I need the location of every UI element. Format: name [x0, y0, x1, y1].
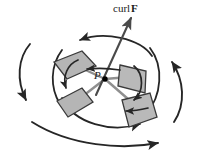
- outer-arrow-left: [20, 44, 30, 100]
- outer-arrow-bottom: [32, 122, 158, 146]
- arc-left-sweep: [53, 50, 62, 104]
- vector-f-symbol: F: [131, 2, 138, 14]
- spin-arrow-middle-left: [87, 68, 120, 70]
- point-p-label: P: [94, 70, 101, 81]
- point-p-dot: [102, 76, 107, 81]
- outer-arrow-right: [172, 62, 182, 122]
- curl-word: curl: [113, 2, 130, 14]
- curl-figure: curl F P: [0, 0, 199, 159]
- paddle-upper-left: [54, 51, 96, 79]
- curl-vector-label: curl F: [113, 3, 138, 14]
